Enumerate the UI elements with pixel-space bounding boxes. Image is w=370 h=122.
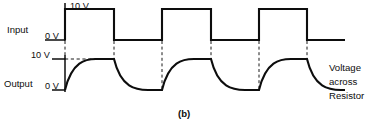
waveform-diagram: Input Output 10 V 0 V 10 V 0 V Voltage a… <box>0 0 370 122</box>
input-high-voltage-label: 10 V <box>70 1 90 11</box>
side-label-line3: Resistor <box>329 90 365 101</box>
waveform-figure: Input Output 10 V 0 V 10 V 0 V Voltage a… <box>0 0 370 122</box>
output-rc-wave-trace <box>65 59 345 90</box>
output-high-voltage-label: 10 V <box>31 50 51 60</box>
output-low-voltage-label: 0 V <box>45 81 60 91</box>
input-low-voltage-label: 0 V <box>45 31 60 41</box>
output-row-label: Output <box>4 78 33 89</box>
figure-caption: (b) <box>178 108 190 119</box>
input-row-label: Input <box>7 24 28 35</box>
input-square-wave-trace <box>65 9 345 40</box>
side-label-line2: across <box>329 76 357 87</box>
side-label-line1: Voltage <box>329 62 361 73</box>
